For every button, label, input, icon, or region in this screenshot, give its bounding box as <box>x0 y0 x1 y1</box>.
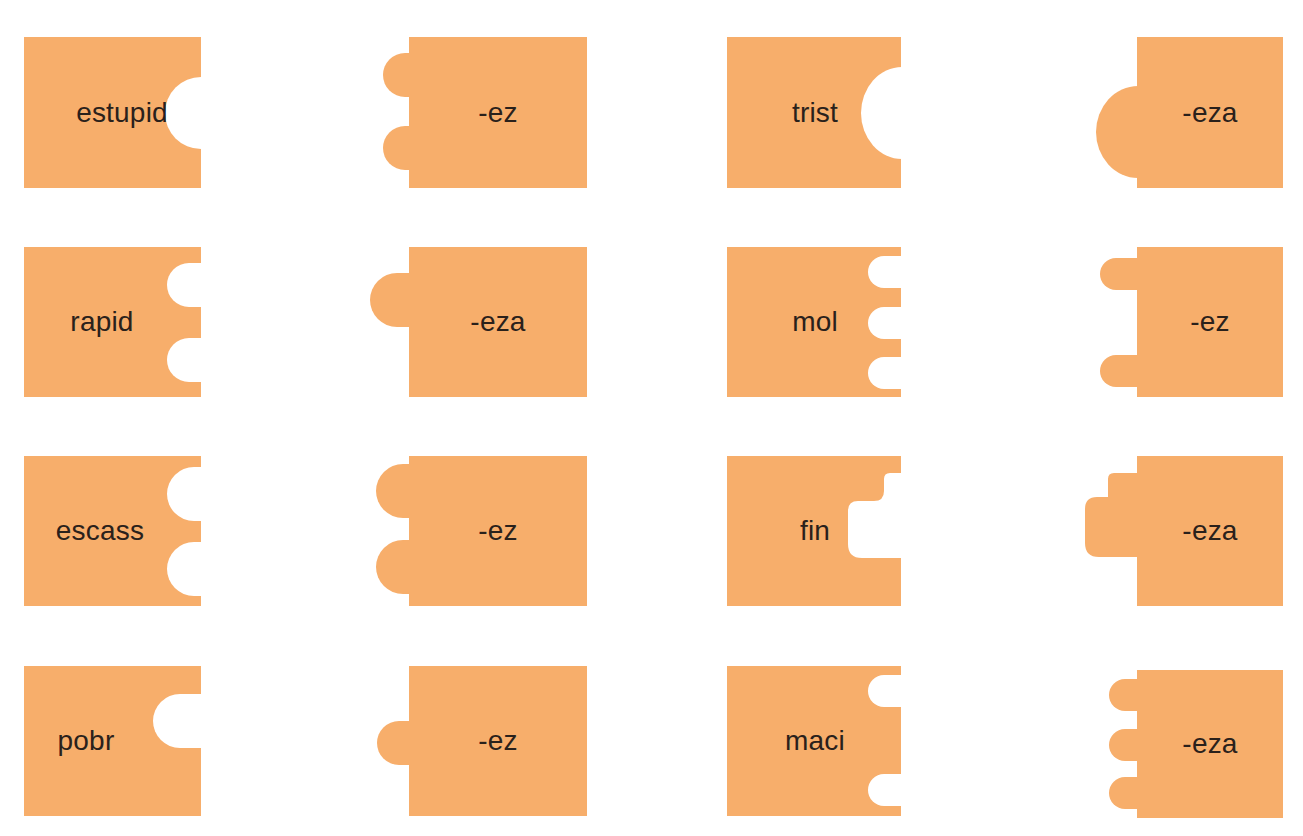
piece-label: trist <box>792 97 838 129</box>
puzzle-piece[interactable]: -ez <box>409 456 587 606</box>
piece-label: escass <box>56 515 144 547</box>
tab-knob <box>370 273 410 327</box>
piece-label: -eza <box>1182 515 1237 547</box>
piece-label: -ez <box>478 97 518 129</box>
puzzle-piece[interactable]: -ez <box>409 37 587 188</box>
socket-notch <box>868 256 902 288</box>
puzzle-piece[interactable]: -ez <box>1137 247 1283 397</box>
piece-label: estupid <box>76 97 168 129</box>
piece-label: -eza <box>1182 728 1237 760</box>
tab-knob <box>376 464 410 518</box>
socket-notch <box>868 307 902 339</box>
piece-label: mol <box>792 306 838 338</box>
tab-knob <box>383 126 410 170</box>
piece-label: -eza <box>470 306 525 338</box>
tab-knob <box>1100 258 1138 290</box>
puzzle-piece[interactable]: fin <box>727 456 901 606</box>
puzzle-piece[interactable]: maci <box>727 666 901 816</box>
puzzle-piece[interactable]: -eza <box>1137 670 1283 818</box>
puzzle-piece[interactable]: escass <box>24 456 201 606</box>
piece-label: -eza <box>1182 97 1237 129</box>
puzzle-piece[interactable]: trist <box>727 37 901 188</box>
piece-label: maci <box>785 725 845 757</box>
tab-knob <box>376 540 410 594</box>
piece-label: -ez <box>1190 306 1230 338</box>
puzzle-piece[interactable]: rapid <box>24 247 201 397</box>
puzzle-piece[interactable]: -eza <box>1137 456 1283 606</box>
tab-knob <box>383 53 410 97</box>
puzzle-piece[interactable]: -eza <box>1137 37 1283 188</box>
tab-knob <box>377 721 410 765</box>
piece-label: rapid <box>70 306 133 338</box>
socket-notch <box>868 357 902 389</box>
socket-notch <box>868 675 902 707</box>
piece-label: pobr <box>58 725 115 757</box>
puzzle-piece[interactable]: estupid <box>24 37 201 188</box>
puzzle-piece[interactable]: mol <box>727 247 901 397</box>
tab-knob <box>1085 473 1138 557</box>
tab-knob <box>1096 86 1138 178</box>
socket-notch <box>868 774 902 806</box>
puzzle-piece[interactable]: pobr <box>24 666 201 816</box>
tab-knob <box>1100 355 1138 387</box>
tab-knob <box>1109 679 1138 711</box>
puzzle-piece[interactable]: -ez <box>409 666 587 816</box>
tab-knob <box>1109 777 1138 809</box>
tab-knob <box>1109 729 1138 761</box>
piece-label: -ez <box>478 515 518 547</box>
piece-label: -ez <box>478 725 518 757</box>
piece-label: fin <box>800 515 830 547</box>
puzzle-piece[interactable]: -eza <box>409 247 587 397</box>
